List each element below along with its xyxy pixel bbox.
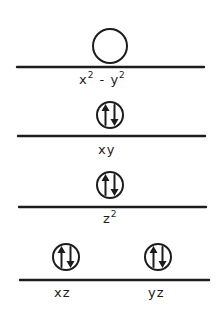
level-x2-y2: x2 - y2	[17, 29, 204, 87]
level-xz-yz: xz yz	[20, 244, 209, 300]
paired-orbital-circle	[145, 244, 171, 270]
paired-orbital-circle	[97, 172, 123, 198]
spin-down-arrow-icon	[111, 175, 119, 196]
paired-orbital-circle	[53, 244, 79, 270]
orbital-label-xy: xy	[98, 142, 115, 157]
paired-orbital-circle	[97, 102, 123, 128]
orbital-diagram: x2 - y2 xy z2	[0, 0, 222, 313]
empty-orbital-circle	[93, 29, 127, 63]
spin-down-arrow-icon	[159, 247, 167, 268]
spin-up-arrow-icon	[58, 246, 66, 267]
orbital-label-xz: xz	[54, 285, 71, 300]
level-z2: z2	[19, 172, 206, 226]
spin-up-arrow-icon	[102, 104, 110, 125]
spin-up-arrow-icon	[102, 174, 110, 195]
spin-down-arrow-icon	[111, 105, 119, 126]
orbital-label-x2-y2: x2 - y2	[79, 70, 126, 87]
orbital-label-yz: yz	[148, 285, 165, 300]
spin-up-arrow-icon	[150, 246, 158, 267]
orbital-label-z2: z2	[103, 209, 118, 226]
spin-down-arrow-icon	[67, 247, 75, 268]
orbital-yz	[145, 244, 171, 270]
orbital-xz	[53, 244, 79, 270]
level-xy: xy	[18, 102, 205, 157]
